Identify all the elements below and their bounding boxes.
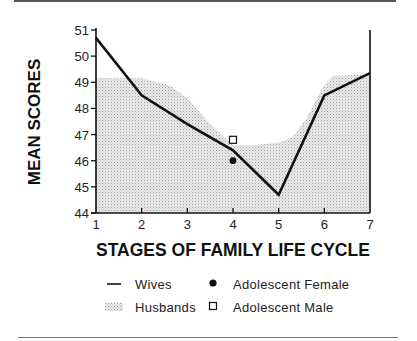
x-tick-label: 6 bbox=[321, 217, 328, 232]
legend-adolescent-male-swatch bbox=[210, 303, 217, 310]
y-tick-label: 49 bbox=[75, 75, 89, 90]
adolescent-male-point bbox=[230, 136, 237, 143]
x-tick-label: 3 bbox=[184, 217, 191, 232]
y-tick-label: 48 bbox=[75, 101, 89, 116]
legend-husbands-swatch bbox=[105, 303, 123, 311]
x-tick-label: 1 bbox=[92, 217, 99, 232]
y-axis-title: MEAN SCORES bbox=[25, 59, 44, 186]
legend-adolescent-male-label: Adolescent Male bbox=[233, 300, 334, 315]
y-tick-label: 46 bbox=[75, 154, 89, 169]
x-tick-label: 5 bbox=[275, 217, 282, 232]
chart: 44454647484950511234567 MEAN SCORES STAG… bbox=[0, 0, 417, 341]
legend-adolescent-female-swatch bbox=[209, 279, 216, 286]
x-tick-label: 7 bbox=[366, 217, 373, 232]
y-tick-label: 45 bbox=[75, 180, 89, 195]
legend-wives-label: Wives bbox=[135, 277, 172, 292]
y-tick-label: 50 bbox=[75, 49, 89, 64]
legend-adolescent-female-label: Adolescent Female bbox=[233, 277, 349, 292]
y-tick-label: 47 bbox=[75, 128, 89, 143]
bottom-rule bbox=[18, 337, 398, 338]
adolescent-female-point bbox=[230, 157, 237, 164]
x-axis-title: STAGES OF FAMILY LIFE CYCLE bbox=[96, 240, 370, 260]
y-tick-label: 44 bbox=[75, 206, 89, 221]
legend: Wives Adolescent Female Husbands Adolesc… bbox=[105, 277, 349, 315]
legend-husbands-label: Husbands bbox=[135, 300, 196, 315]
x-tick-label: 2 bbox=[138, 217, 145, 232]
y-tick-label: 51 bbox=[75, 23, 89, 38]
x-tick-label: 4 bbox=[229, 217, 236, 232]
